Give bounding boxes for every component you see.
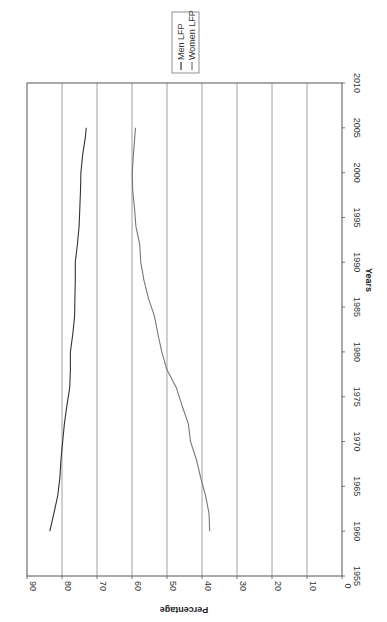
percentage-tick-label: 40	[203, 581, 213, 591]
year-tick-label: 1960	[352, 521, 362, 541]
year-tick-label: 2010	[352, 73, 362, 93]
year-tick-label: 1970	[352, 432, 362, 452]
percentage-tick-label: 30	[238, 581, 248, 591]
legend: Men LFP Women LFP	[172, 10, 199, 73]
gridlines	[62, 83, 307, 576]
year-tick-label: 1980	[352, 342, 362, 362]
legend-label-men: Men LFP	[176, 23, 186, 60]
year-tick-label: 2000	[352, 163, 362, 183]
women-lfp-line	[132, 128, 209, 531]
series-lines	[50, 128, 210, 531]
year-tick-label: 1990	[352, 252, 362, 272]
percentage-axis-title: Percentage	[160, 605, 209, 615]
year-tick-label: 1965	[352, 476, 362, 496]
plot-area	[27, 83, 342, 576]
percentage-axis: 0102030405060708090	[27, 576, 353, 591]
year-tick-label: 2005	[352, 118, 362, 138]
percentage-tick-label: 70	[98, 581, 108, 591]
years-axis-title: Years	[364, 268, 374, 292]
percentage-tick-label: 50	[168, 581, 178, 591]
percentage-tick-label: 0	[343, 583, 353, 588]
percentage-tick-label: 80	[63, 581, 73, 591]
men-lfp-line	[50, 128, 86, 531]
percentage-tick-label: 20	[273, 581, 283, 591]
years-axis: 1955196019651970197519801985199019952000…	[342, 73, 362, 586]
year-tick-label: 1995	[352, 207, 362, 227]
percentage-tick-label: 10	[308, 581, 318, 591]
percentage-tick-label: 60	[133, 581, 143, 591]
year-tick-label: 1955	[352, 566, 362, 586]
year-tick-label: 1975	[352, 387, 362, 407]
year-tick-label: 1985	[352, 297, 362, 317]
percentage-tick-label: 90	[28, 581, 38, 591]
lfp-chart: 0102030405060708090 19551960196519701975…	[0, 0, 387, 622]
legend-label-women: Women LFP	[187, 10, 197, 60]
